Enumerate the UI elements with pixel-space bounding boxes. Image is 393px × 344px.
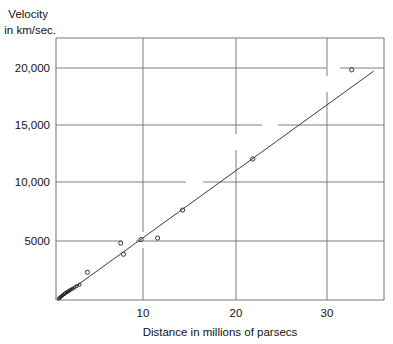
y-axis-title-line2: in km/sec. [4, 24, 56, 36]
x-tick-label-10: 10 [137, 307, 150, 319]
x-tick-label-20: 20 [230, 307, 243, 319]
hubble-law-scatter-chart: Velocity in km/sec. [0, 0, 393, 344]
chart-canvas: Velocity in km/sec. [0, 0, 393, 344]
y-tick-label-10000: 10,000 [15, 176, 50, 188]
x-axis-title: Distance in millions of parsecs [143, 326, 298, 338]
y-tick-label-20000: 20,000 [15, 62, 50, 74]
x-tick-label-30: 30 [321, 307, 334, 319]
chart-background [0, 0, 393, 344]
y-tick-label-15000: 15,000 [15, 119, 50, 131]
y-tick-label-5000: 5000 [24, 235, 50, 247]
y-axis-title-line1: Velocity [8, 8, 48, 20]
